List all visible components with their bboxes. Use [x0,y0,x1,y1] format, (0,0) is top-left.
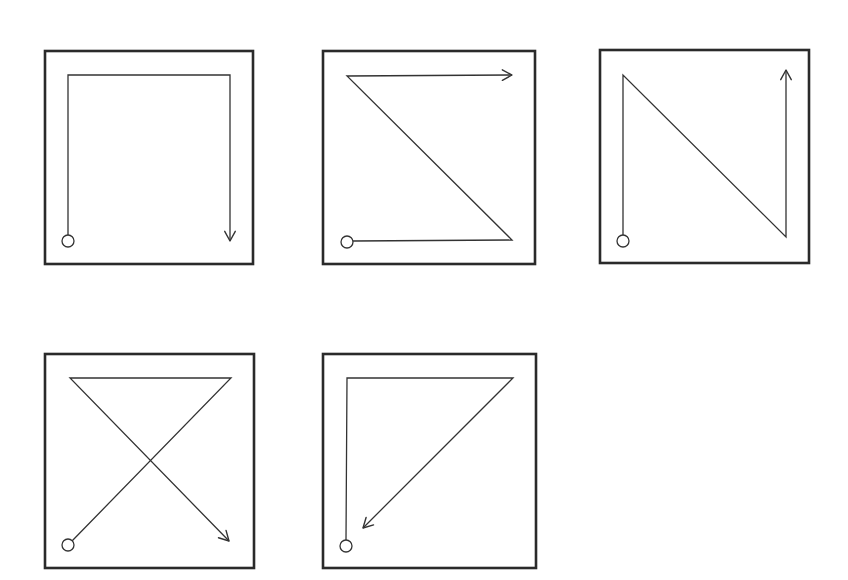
start-circle-icon [62,235,74,247]
panel-5-triangle [323,354,536,568]
scan-path-line [68,75,230,241]
start-circle-icon [617,235,629,247]
start-circle-icon [340,540,352,552]
start-circle-icon [341,236,353,248]
panel-4-x-crossing [45,354,254,568]
scan-path-line [347,75,512,241]
scan-pattern-diagram [0,0,848,580]
scan-path-line [346,378,513,540]
panel-2-z-shape [323,51,535,264]
scan-path-line [70,378,231,541]
start-circle-icon [62,539,74,551]
panel-1-inverted-u [45,51,253,264]
panel-3-n-shape [600,50,809,263]
scan-path-line [623,70,786,237]
panel-frame [45,51,253,264]
